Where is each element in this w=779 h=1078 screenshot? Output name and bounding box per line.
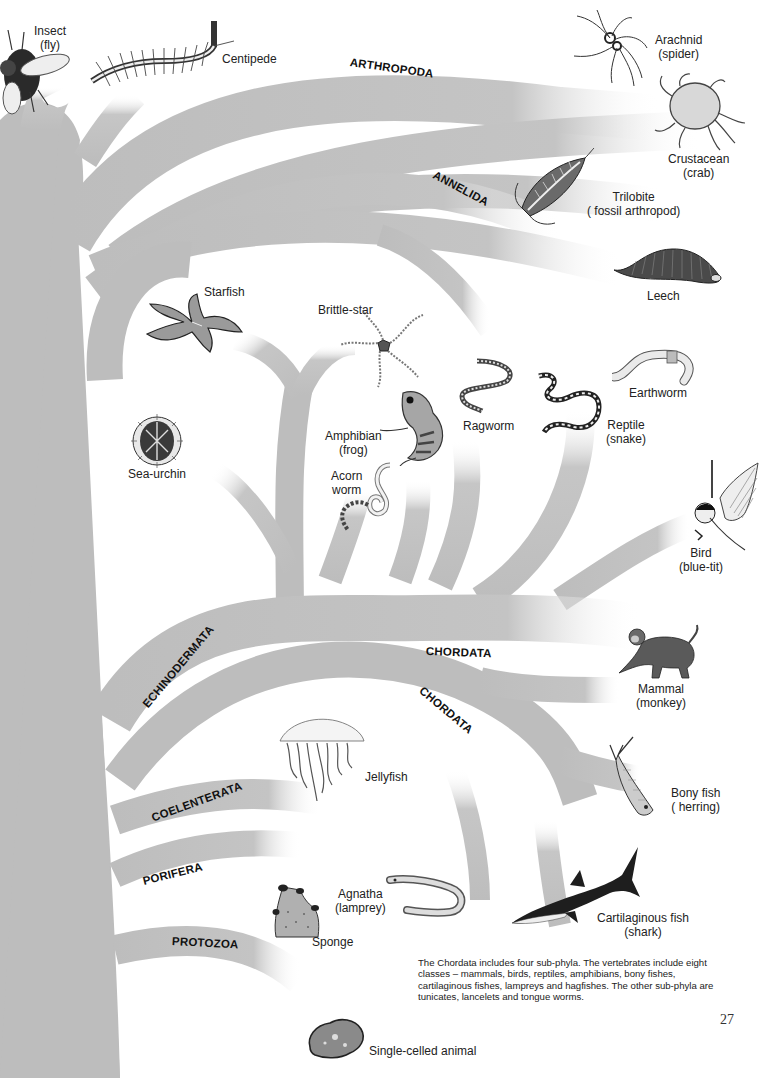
sponge-icon <box>268 882 326 940</box>
label-jellyfish: Jellyfish <box>365 770 408 784</box>
label-arachnid: Arachnid(spider) <box>655 33 702 61</box>
label-single-celled: Single-celled animal <box>369 1044 476 1058</box>
label-crustacean: Crustacean(crab) <box>668 152 729 180</box>
page-number: 27 <box>720 1012 734 1028</box>
label-sea-urchin: Sea-urchin <box>128 467 186 481</box>
leech-icon <box>612 245 724 290</box>
label-trilobite: Trilobite( fossil arthropod) <box>587 190 680 218</box>
label-bony-fish: Bony fish( herring) <box>671 786 720 814</box>
lamprey-icon <box>385 872 470 917</box>
label-agnatha: Agnatha(lamprey) <box>335 887 386 915</box>
ragworm-icon <box>452 356 524 418</box>
label-starfish: Starfish <box>204 285 245 299</box>
monkey-icon <box>617 623 712 681</box>
sea-urchin-icon <box>126 412 188 470</box>
brittle-star-icon <box>338 305 433 390</box>
label-mammal: Mammal(monkey) <box>636 682 686 710</box>
chordata-caption: The Chordata includes four sub-phyla. Th… <box>418 957 718 1003</box>
phylum-chordata-upper: CHORDATA <box>426 645 492 659</box>
label-leech: Leech <box>647 289 680 303</box>
label-sponge: Sponge <box>312 935 353 949</box>
frog-icon <box>378 388 450 466</box>
label-brittle-star: Brittle-star <box>318 303 373 317</box>
label-centipede: Centipede <box>222 52 277 66</box>
earthworm-icon <box>612 347 698 387</box>
label-cartilaginous-fish: Cartilaginous fish(shark) <box>597 911 689 939</box>
jellyfish-icon <box>272 713 368 803</box>
trilobite-icon <box>510 148 595 228</box>
crab-icon <box>650 68 750 153</box>
label-bird: Bird(blue-tit) <box>679 546 723 574</box>
label-amphibian: Amphibian(frog) <box>325 429 382 457</box>
label-insect: Insect(fly) <box>34 24 66 52</box>
snake-icon <box>534 372 606 437</box>
bird-icon <box>690 458 762 553</box>
starfish-icon <box>142 292 247 354</box>
centipede-icon <box>84 16 244 96</box>
label-reptile: Reptile(snake) <box>606 418 646 446</box>
amoeba-icon <box>305 1015 367 1060</box>
herring-icon <box>608 735 666 821</box>
label-acorn-worm: Acornworm <box>331 469 362 497</box>
label-earthworm: Earthworm <box>629 386 687 400</box>
spider-icon <box>572 8 652 88</box>
label-ragworm: Ragworm <box>463 419 514 433</box>
